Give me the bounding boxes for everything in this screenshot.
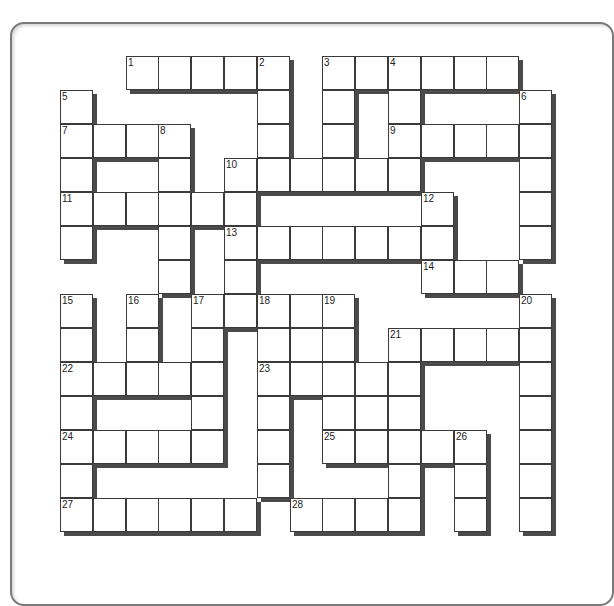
crossword-cell[interactable]	[290, 294, 323, 328]
letter-input[interactable]	[61, 125, 92, 157]
crossword-cell[interactable]	[93, 192, 126, 226]
crossword-cell[interactable]: 4	[388, 56, 421, 90]
crossword-cell[interactable]	[388, 90, 421, 124]
crossword-cell[interactable]: 8	[158, 124, 191, 158]
letter-input[interactable]	[520, 193, 551, 225]
crossword-cell[interactable]	[257, 464, 290, 498]
crossword-cell[interactable]	[421, 328, 454, 362]
crossword-cell[interactable]	[519, 328, 552, 362]
crossword-cell[interactable]: 10	[224, 158, 257, 192]
letter-input[interactable]	[192, 329, 223, 361]
crossword-cell[interactable]	[191, 56, 224, 90]
letter-input[interactable]	[258, 227, 289, 259]
crossword-cell[interactable]: 17	[191, 294, 224, 328]
letter-input[interactable]	[356, 431, 387, 463]
letter-input[interactable]	[520, 363, 551, 395]
letter-input[interactable]	[159, 193, 190, 225]
crossword-cell[interactable]	[322, 362, 355, 396]
crossword-cell[interactable]	[126, 498, 159, 532]
letter-input[interactable]	[291, 363, 322, 395]
letter-input[interactable]	[389, 363, 420, 395]
crossword-cell[interactable]	[290, 226, 323, 260]
crossword-cell[interactable]: 11	[60, 192, 93, 226]
crossword-cell[interactable]: 28	[290, 498, 323, 532]
crossword-cell[interactable]	[126, 362, 159, 396]
crossword-cell[interactable]: 21	[388, 328, 421, 362]
letter-input[interactable]	[258, 363, 289, 395]
crossword-cell[interactable]	[388, 226, 421, 260]
crossword-cell[interactable]	[486, 56, 519, 90]
letter-input[interactable]	[291, 295, 322, 327]
crossword-cell[interactable]	[158, 430, 191, 464]
crossword-cell[interactable]	[191, 430, 224, 464]
letter-input[interactable]	[159, 363, 190, 395]
crossword-cell[interactable]	[93, 362, 126, 396]
letter-input[interactable]	[61, 295, 92, 327]
crossword-cell[interactable]	[126, 328, 159, 362]
crossword-cell[interactable]	[257, 396, 290, 430]
letter-input[interactable]	[61, 227, 92, 259]
crossword-cell[interactable]: 13	[224, 226, 257, 260]
letter-input[interactable]	[225, 295, 256, 327]
crossword-cell[interactable]	[60, 226, 93, 260]
crossword-cell[interactable]	[224, 294, 257, 328]
letter-input[interactable]	[389, 329, 420, 361]
letter-input[interactable]	[356, 159, 387, 191]
letter-input[interactable]	[422, 57, 453, 89]
letter-input[interactable]	[225, 227, 256, 259]
letter-input[interactable]	[192, 397, 223, 429]
letter-input[interactable]	[389, 125, 420, 157]
crossword-cell[interactable]: 9	[388, 124, 421, 158]
crossword-cell[interactable]	[486, 260, 519, 294]
letter-input[interactable]	[258, 397, 289, 429]
crossword-cell[interactable]	[93, 430, 126, 464]
crossword-cell[interactable]: 22	[60, 362, 93, 396]
letter-input[interactable]	[192, 295, 223, 327]
crossword-cell[interactable]	[454, 464, 487, 498]
letter-input[interactable]	[225, 499, 256, 531]
crossword-cell[interactable]: 26	[454, 430, 487, 464]
letter-input[interactable]	[225, 57, 256, 89]
letter-input[interactable]	[323, 329, 354, 361]
crossword-cell[interactable]	[290, 158, 323, 192]
letter-input[interactable]	[455, 431, 486, 463]
letter-input[interactable]	[455, 125, 486, 157]
letter-input[interactable]	[520, 91, 551, 123]
letter-input[interactable]	[422, 193, 453, 225]
letter-input[interactable]	[159, 57, 190, 89]
crossword-cell[interactable]	[60, 158, 93, 192]
letter-input[interactable]	[323, 363, 354, 395]
crossword-cell[interactable]	[322, 124, 355, 158]
letter-input[interactable]	[389, 431, 420, 463]
letter-input[interactable]	[192, 499, 223, 531]
crossword-cell[interactable]	[454, 56, 487, 90]
letter-input[interactable]	[291, 499, 322, 531]
crossword-cell[interactable]	[60, 464, 93, 498]
letter-input[interactable]	[61, 329, 92, 361]
crossword-cell[interactable]	[519, 158, 552, 192]
crossword-cell[interactable]	[355, 498, 388, 532]
crossword-cell[interactable]	[191, 328, 224, 362]
crossword-cell[interactable]	[519, 430, 552, 464]
crossword-cell[interactable]	[257, 90, 290, 124]
letter-input[interactable]	[520, 295, 551, 327]
crossword-cell[interactable]	[158, 192, 191, 226]
letter-input[interactable]	[192, 431, 223, 463]
crossword-cell[interactable]	[257, 124, 290, 158]
letter-input[interactable]	[159, 159, 190, 191]
crossword-cell[interactable]: 19	[322, 294, 355, 328]
letter-input[interactable]	[127, 329, 158, 361]
letter-input[interactable]	[389, 159, 420, 191]
crossword-cell[interactable]	[421, 124, 454, 158]
letter-input[interactable]	[520, 397, 551, 429]
crossword-cell[interactable]	[60, 396, 93, 430]
letter-input[interactable]	[258, 57, 289, 89]
letter-input[interactable]	[323, 431, 354, 463]
letter-input[interactable]	[389, 465, 420, 497]
letter-input[interactable]	[389, 57, 420, 89]
letter-input[interactable]	[258, 329, 289, 361]
letter-input[interactable]	[258, 465, 289, 497]
crossword-cell[interactable]: 16	[126, 294, 159, 328]
crossword-cell[interactable]	[355, 158, 388, 192]
crossword-cell[interactable]	[454, 124, 487, 158]
